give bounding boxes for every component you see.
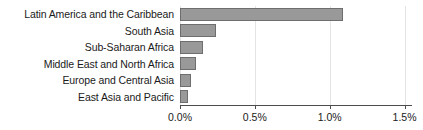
category-label: Sub-Saharan Africa	[0, 39, 174, 56]
bar-track	[180, 39, 412, 56]
category-label: East Asia and Pacific	[0, 89, 174, 106]
bar-chart: Latin America and the Caribbean South As…	[0, 0, 423, 130]
bar-track	[180, 56, 412, 73]
bar-rows: Latin America and the Caribbean South As…	[0, 6, 423, 105]
x-tick-label-2: 1.0%	[318, 111, 342, 123]
x-tick-label-1: 0.5%	[243, 111, 267, 123]
bar-row: East Asia and Pacific	[0, 89, 423, 106]
bar-sub-saharan-africa	[180, 41, 203, 54]
bar-row: South Asia	[0, 23, 423, 40]
bar-track	[180, 23, 412, 40]
category-label: Middle East and North Africa	[0, 56, 174, 73]
bar-east-asia-and-pacific	[180, 90, 188, 103]
category-label: Europe and Central Asia	[0, 72, 174, 89]
category-label: South Asia	[0, 23, 174, 40]
bar-row: Middle East and North Africa	[0, 56, 423, 73]
x-tick-1	[255, 105, 256, 109]
bar-track	[180, 6, 412, 23]
bar-row: Sub-Saharan Africa	[0, 39, 423, 56]
plot-area: Latin America and the Caribbean South As…	[0, 0, 423, 130]
x-axis-line	[180, 105, 412, 106]
bar-europe-and-central-asia	[180, 74, 191, 87]
bar-track	[180, 89, 412, 106]
bar-south-asia	[180, 24, 216, 37]
bar-row: Latin America and the Caribbean	[0, 6, 423, 23]
bar-latin-america-and-the-caribbean	[180, 8, 343, 21]
x-tick-3	[405, 105, 406, 109]
x-tick-2	[330, 105, 331, 109]
bar-middle-east-and-north-africa	[180, 57, 196, 70]
category-label: Latin America and the Caribbean	[0, 6, 174, 23]
x-tick-label-3: 1.5%	[393, 111, 417, 123]
bar-track	[180, 72, 412, 89]
x-tick-label-0: 0.0%	[168, 111, 192, 123]
bar-row: Europe and Central Asia	[0, 72, 423, 89]
x-tick-0	[180, 105, 181, 109]
